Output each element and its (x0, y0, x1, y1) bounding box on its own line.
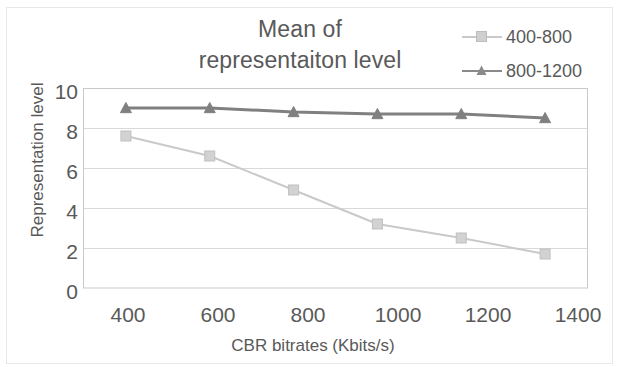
data-point-400-800-600 (205, 151, 215, 161)
chart-figure: Mean of representaiton level 400-800 800… (0, 0, 617, 367)
plot-canvas (0, 0, 617, 367)
series-line-400-800 (126, 136, 545, 254)
data-point-400-800-1200 (456, 233, 466, 243)
data-point-400-800-800 (289, 185, 299, 195)
series-400-800 (121, 131, 550, 259)
gridlines (84, 129, 587, 249)
plot-frame (84, 89, 588, 289)
series-line-800-1200 (126, 108, 545, 118)
series-800-1200 (120, 103, 550, 123)
data-point-400-800-1400 (540, 249, 550, 259)
plot-area-wrapper: Representation level CBR bitrates (Kbits… (0, 0, 617, 367)
series-layer (120, 103, 550, 260)
data-point-400-800-1000 (372, 219, 382, 229)
data-point-400-800-400 (121, 131, 131, 141)
